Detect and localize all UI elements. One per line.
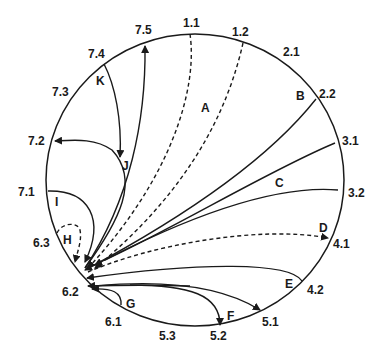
- node-label-1-2: 1.2: [232, 25, 249, 39]
- node-label-1-1: 1.1: [183, 16, 200, 30]
- path-c-2: [95, 189, 338, 265]
- path-f-2: [130, 285, 220, 325]
- path-label-j: J: [122, 159, 129, 173]
- path-label-i: I: [55, 195, 58, 209]
- node-label-4-2: 4.2: [307, 283, 324, 297]
- outer-circle: [46, 34, 344, 326]
- path-label-e: E: [285, 277, 293, 291]
- path-label-g: G: [126, 297, 135, 311]
- path-e: [87, 266, 302, 281]
- path-label-f: F: [227, 309, 234, 323]
- path-k: [104, 64, 120, 157]
- path-label-h: H: [63, 233, 72, 247]
- node-label-7-5: 7.5: [135, 23, 152, 37]
- node-label-5-3: 5.3: [159, 329, 176, 343]
- node-label-7-1: 7.1: [18, 185, 35, 199]
- node-label-6-2: 6.2: [62, 285, 79, 299]
- path-a-1: [88, 34, 191, 268]
- path-e-2: [88, 285, 190, 286]
- path-label-d: D: [319, 221, 328, 235]
- node-label-2-2: 2.2: [319, 87, 336, 101]
- path-label-c: C: [275, 176, 284, 190]
- node-label-3-1: 3.1: [342, 134, 359, 148]
- node-label-5-1: 5.1: [262, 315, 279, 329]
- path-label-b: B: [296, 89, 305, 103]
- node-label-6-1: 6.1: [105, 315, 122, 329]
- node-label-7-4: 7.4: [88, 47, 105, 61]
- node-label-4-1: 4.1: [333, 237, 350, 251]
- node-label-6-3: 6.3: [33, 236, 50, 250]
- transition-diagram: 1.1 1.2 2.1 2.2 3.1 3.2 4.1 4.2 5.1 5.2 …: [0, 0, 381, 364]
- path-label-a: A: [201, 101, 210, 115]
- node-label-7-3: 7.3: [52, 85, 69, 99]
- node-label-3-2: 3.2: [348, 186, 365, 200]
- node-label-2-1: 2.1: [283, 45, 300, 59]
- node-label-5-2: 5.2: [210, 329, 227, 343]
- path-label-k: K: [96, 74, 105, 88]
- node-label-7-2: 7.2: [28, 134, 45, 148]
